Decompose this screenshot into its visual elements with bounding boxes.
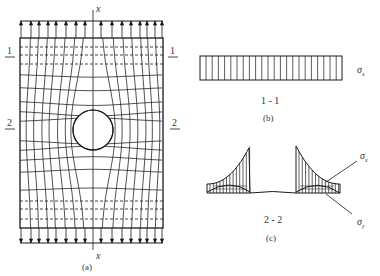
caption-c: (c) <box>266 233 276 243</box>
uniform-stress-block <box>200 56 342 80</box>
figure-b-uniform-stress <box>200 56 342 80</box>
caption-a: (a) <box>82 262 92 272</box>
section-2-left-label: 2 <box>7 117 12 128</box>
sigma-x-label-c: σx <box>360 150 368 163</box>
sigma-x-leader <box>326 161 357 182</box>
sigma-y-leader <box>326 194 352 214</box>
axis-label-x-bottom: x <box>95 250 101 261</box>
sigma-y-hatch <box>214 186 334 189</box>
sigma-y-label-c: σy <box>357 216 365 229</box>
stress-concentration-figure: x x (a) 1 1 2 2 σx 1 - 1 (b) σx σy 2 - 2… <box>0 0 380 276</box>
section-2-right-label: 2 <box>172 117 177 128</box>
figure-a-plate <box>5 10 180 250</box>
section-1-left-label: 1 <box>7 45 12 56</box>
section-1-right-label: 1 <box>170 45 175 56</box>
section-label-1-1: 1 - 1 <box>261 95 279 106</box>
caption-b: (b) <box>263 113 274 123</box>
top-tension-arrows <box>20 21 164 38</box>
figure-c-stress-distribution <box>207 146 357 214</box>
bottom-tension-arrows <box>20 228 164 243</box>
hole-baseline <box>250 192 296 194</box>
axis-label-x-top: x <box>95 3 101 14</box>
section-label-2-2: 2 - 2 <box>264 214 282 225</box>
uniform-stress-hatch <box>206 56 336 80</box>
sigma-x-label-b: σx <box>357 64 365 77</box>
